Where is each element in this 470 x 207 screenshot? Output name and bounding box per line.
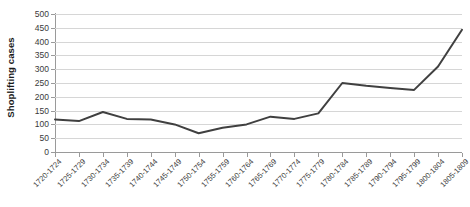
- y-axis-tick-label: 150: [35, 106, 49, 116]
- y-axis-tick-label: 400: [35, 37, 49, 47]
- y-axis-tick-label: 100: [35, 119, 49, 129]
- y-axis-tick-label: 450: [35, 23, 49, 33]
- y-axis-tick-label: 200: [35, 92, 49, 102]
- y-axis-tick-label: 500: [35, 9, 49, 19]
- plot-area: [55, 14, 462, 152]
- y-axis-tick-label: 300: [35, 64, 49, 74]
- shoplifting-cases-line-chart: Shoplifting cases 5004504003503002502001…: [0, 0, 470, 207]
- y-axis-tick-labels: 500450400350300250200150100500: [20, 0, 52, 160]
- y-axis-title-text: Shoplifting cases: [5, 37, 16, 117]
- y-axis-tick-label: 50: [40, 133, 49, 143]
- y-axis-title: Shoplifting cases: [0, 0, 20, 155]
- y-axis-tick-label: 350: [35, 50, 49, 60]
- x-axis-tick-labels: 1720-17241725-17291730-17341735-17391740…: [55, 157, 470, 207]
- y-axis-tick-label: 0: [44, 147, 49, 157]
- y-axis-tick-label: 250: [35, 78, 49, 88]
- data-series-line: [55, 14, 462, 152]
- series-polyline: [55, 30, 462, 134]
